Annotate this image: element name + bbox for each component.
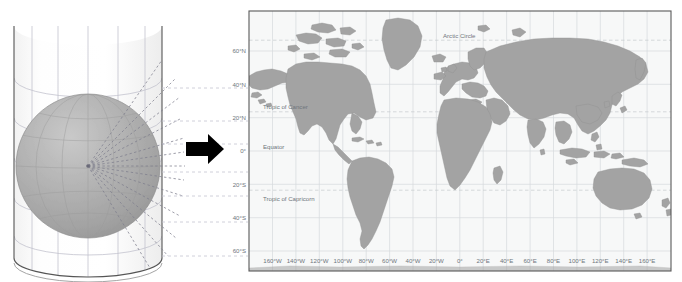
- lon-label-140e: 140°E: [615, 257, 632, 264]
- lon-label-160e: 160°E: [639, 257, 656, 264]
- lon-label-60e: 60°E: [523, 257, 536, 264]
- lat-label-20s: 20°S: [233, 181, 246, 188]
- map-longitude-labels: 160°W 140°W 120°W 100°W 80°W 60°W 40°W 2…: [263, 257, 655, 264]
- label-tropic-of-capricorn: Tropic of Capricorn: [263, 195, 315, 202]
- lon-label-60w: 60°W: [382, 257, 397, 264]
- label-equator: Equator: [263, 143, 284, 150]
- projection-figure: 60°N 40°N 20°N 0° 20°S 40°S 60°S 160°W 1…: [0, 0, 682, 282]
- lon-label-140w: 140°W: [287, 257, 306, 264]
- label-tropic-of-cancer: Tropic of Cancer: [263, 103, 308, 110]
- lon-label-40e: 40°E: [500, 257, 513, 264]
- label-arctic-circle: Arctic Circle: [443, 32, 476, 39]
- lon-label-160w: 160°W: [263, 257, 282, 264]
- lon-label-40w: 40°W: [406, 257, 421, 264]
- lat-label-20n: 20°N: [232, 114, 246, 121]
- lon-label-0: 0°: [457, 257, 463, 264]
- lon-label-20e: 20°E: [477, 257, 490, 264]
- lon-label-120w: 120°W: [310, 257, 329, 264]
- lon-label-100e: 100°E: [569, 257, 586, 264]
- lat-label-40n: 40°N: [232, 81, 246, 88]
- lat-label-60s: 60°S: [233, 247, 246, 254]
- lon-label-100w: 100°W: [334, 257, 353, 264]
- lat-label-60n: 60°N: [232, 47, 246, 54]
- map-latitude-labels: 60°N 40°N 20°N 0° 20°S 40°S 60°S: [232, 47, 246, 254]
- lon-label-80e: 80°E: [547, 257, 560, 264]
- lat-label-40s: 40°S: [233, 214, 246, 221]
- lat-label-0: 0°: [240, 147, 246, 154]
- lon-label-20w: 20°W: [429, 257, 444, 264]
- lon-label-120e: 120°E: [592, 257, 609, 264]
- world-map-panel: 60°N 40°N 20°N 0° 20°S 40°S 60°S 160°W 1…: [0, 0, 682, 282]
- lon-label-80w: 80°W: [359, 257, 374, 264]
